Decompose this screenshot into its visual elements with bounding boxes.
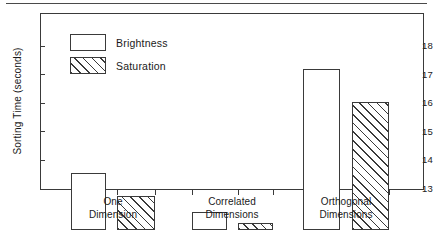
- x-tick-mark-5: [238, 190, 239, 195]
- y-tick-label-18: 18: [411, 41, 433, 51]
- legend-label-brightness: Brightness: [116, 38, 168, 49]
- legend-swatch-brightness: [70, 34, 106, 51]
- x-axis-group-label-orthogonal-dimensions: Orthogonal Dimensions: [296, 196, 396, 221]
- y-tick-label-13: 13: [411, 184, 433, 194]
- legend-label-saturation: Saturation: [116, 61, 166, 72]
- x-tick-mark-8: [352, 190, 353, 195]
- y-tick-mark-17: [40, 74, 45, 75]
- x-axis-group-label-correlated-dimensions: Correlated Dimensions: [182, 196, 282, 221]
- y-axis-title: Sorting Time (seconds): [13, 21, 23, 181]
- y-tick-mark-16: [40, 103, 45, 104]
- group-label-line-1: Correlated: [182, 196, 282, 209]
- x-tick-mark-3: [155, 190, 156, 195]
- group-label-line-2: Dimensions: [182, 209, 282, 222]
- x-tick-mark-7: [303, 190, 304, 195]
- legend-swatch-saturation: [70, 57, 106, 74]
- y-tick-mark-14: [40, 160, 45, 161]
- x-tick-mark-9: [389, 190, 390, 195]
- y-tick-mark-18: [40, 46, 45, 47]
- group-label-line-1: One: [63, 196, 163, 209]
- y-tick-mark-15: [40, 131, 45, 132]
- group-label-line-1: Orthogonal: [296, 196, 396, 209]
- y-tick-label-14: 14: [411, 155, 433, 165]
- y-tick-label-15: 15: [411, 127, 433, 137]
- x-axis-group-label-one-dimension: One Dimension: [63, 196, 163, 221]
- y-tick-label-16: 16: [411, 98, 433, 108]
- x-tick-mark-6: [273, 190, 274, 195]
- top-divider-rule: [6, 3, 427, 4]
- bar-saturation-correlated-dimensions: [238, 223, 273, 230]
- x-tick-mark-4: [192, 190, 193, 195]
- x-tick-mark-2: [117, 190, 118, 195]
- group-label-line-2: Dimensions: [296, 209, 396, 222]
- x-tick-mark-1: [71, 190, 72, 195]
- y-tick-label-17: 17: [411, 70, 433, 80]
- figure-container: Sorting Time (seconds) 18 17 16 15 14 13…: [0, 0, 433, 230]
- group-label-line-2: Dimension: [63, 209, 163, 222]
